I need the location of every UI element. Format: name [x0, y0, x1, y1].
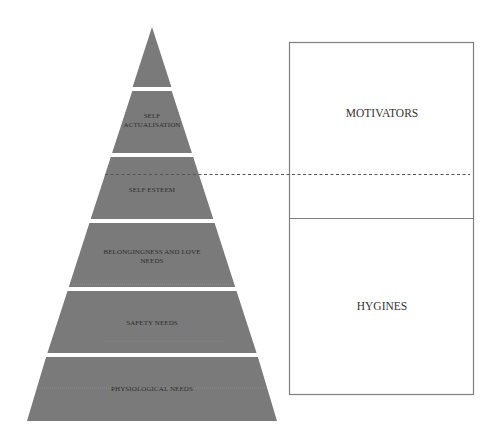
label-self-actualisation-line2: ACTUALISATION	[124, 121, 181, 129]
motivators-label: MOTIVATORS	[346, 107, 418, 119]
label-self-esteem: SELF ESTEEM	[129, 186, 176, 194]
label-safety-needs: SAFETY NEEDS	[126, 319, 178, 327]
herzberg-box: MOTIVATORS HYGINES	[290, 43, 474, 395]
label-physiological-needs: PHYSIOLOGICAL NEEDS	[111, 385, 193, 393]
pyramid	[27, 27, 277, 421]
maslow-herzberg-diagram: SELF ACTUALISATION SELF ESTEEM BELONGING…	[0, 0, 496, 437]
pyramid-level-apex	[133, 27, 172, 87]
label-self-actualisation-line1: SELF	[144, 112, 161, 120]
hygines-label: HYGINES	[357, 300, 407, 312]
label-belongingness-line1: BELONGINGNESS AND LOVE	[103, 248, 200, 256]
label-belongingness-line2: NEEDS	[140, 257, 163, 265]
